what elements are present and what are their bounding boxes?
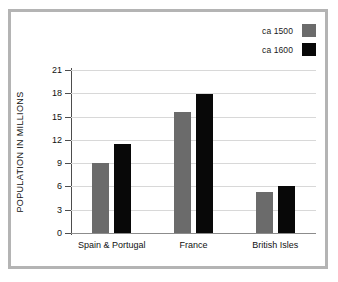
chart-figure: ca 1500 ca 1600 POPULATION IN MILLIONS 0… xyxy=(0,0,338,282)
y-tick-mark-3 xyxy=(65,210,71,211)
bar-spain-portugal-ca-1500 xyxy=(92,163,109,233)
y-tick-mark-9 xyxy=(65,163,71,164)
gridline-0 xyxy=(71,233,316,234)
bar-british-isles-ca-1600 xyxy=(278,186,295,233)
legend-item-ca-1500: ca 1500 xyxy=(262,24,316,37)
y-tick-label-6: 6 xyxy=(57,181,62,191)
plot-area: 036912151821 Spain & PortugalFranceBriti… xyxy=(71,70,316,233)
y-tick-label-3: 3 xyxy=(57,205,62,215)
y-axis-title: POPULATION IN MILLIONS xyxy=(13,70,27,234)
bar-spain-portugal-ca-1600 xyxy=(114,144,131,233)
y-tick-mark-18 xyxy=(65,93,71,94)
y-tick-label-0: 0 xyxy=(57,228,62,238)
y-tick-label-18: 18 xyxy=(52,88,62,98)
y-tick-label-21: 21 xyxy=(52,65,62,75)
y-tick-mark-15 xyxy=(65,117,71,118)
bar-france-ca-1600 xyxy=(196,94,213,233)
y-tick-label-12: 12 xyxy=(52,135,62,145)
gridline-15 xyxy=(71,117,316,118)
legend-item-ca-1600: ca 1600 xyxy=(262,43,316,56)
legend-swatch-ca-1500 xyxy=(302,24,316,37)
legend-label-ca-1500: ca 1500 xyxy=(262,26,293,36)
y-tick-label-9: 9 xyxy=(57,158,62,168)
bar-france-ca-1500 xyxy=(174,112,191,233)
chart-legend: ca 1500 ca 1600 xyxy=(262,24,316,56)
category-label-spain-portugal: Spain & Portugal xyxy=(78,240,146,250)
y-tick-mark-12 xyxy=(65,140,71,141)
category-label-british-isles: British Isles xyxy=(252,240,298,250)
y-tick-mark-21 xyxy=(65,70,71,71)
y-tick-label-15: 15 xyxy=(52,112,62,122)
y-tick-mark-6 xyxy=(65,186,71,187)
gridline-12 xyxy=(71,140,316,141)
gridline-21 xyxy=(71,70,316,71)
legend-label-ca-1600: ca 1600 xyxy=(262,45,293,55)
gridline-18 xyxy=(71,93,316,94)
category-label-france: France xyxy=(179,240,207,250)
bar-british-isles-ca-1500 xyxy=(256,192,273,233)
legend-swatch-ca-1600 xyxy=(302,43,316,56)
y-tick-mark-0 xyxy=(65,233,71,234)
